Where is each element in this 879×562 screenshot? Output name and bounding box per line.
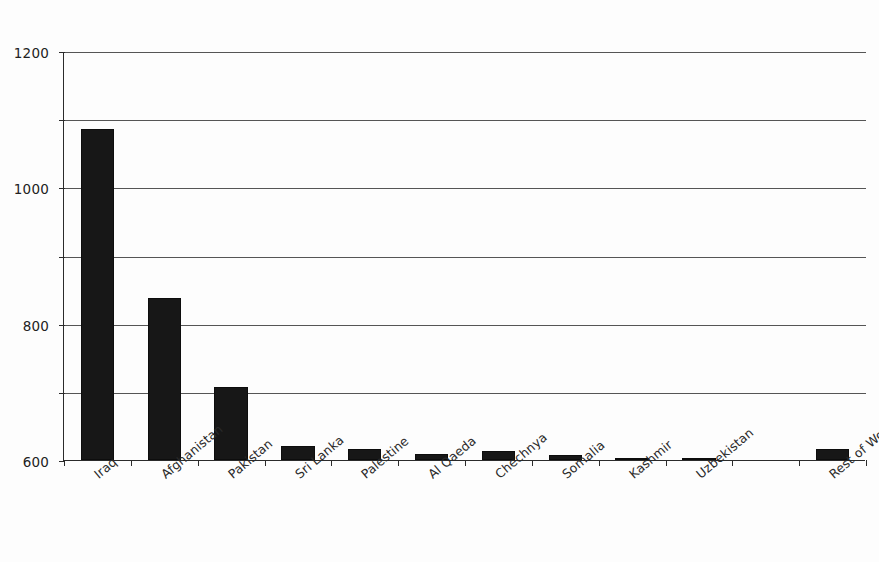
x-tick-mark <box>131 460 132 466</box>
gridline <box>64 188 866 189</box>
bar <box>148 298 181 460</box>
gridline <box>64 120 866 121</box>
x-tick-mark <box>799 460 800 466</box>
x-tick-mark <box>198 460 199 466</box>
bar <box>214 387 247 460</box>
x-tick-mark <box>465 460 466 466</box>
y-tick-label: 600 <box>23 454 59 470</box>
x-tick-mark <box>666 460 667 466</box>
x-tick-mark <box>64 460 65 466</box>
gridline <box>64 325 866 326</box>
x-tick-mark <box>265 460 266 466</box>
y-tick-mark: 600 <box>59 257 65 258</box>
x-tick-mark <box>866 460 867 466</box>
gridline <box>64 393 866 394</box>
y-tick-label: 1200 <box>14 45 59 61</box>
y-tick-mark: 1200 <box>59 52 65 53</box>
y-tick-mark: 800 <box>59 188 65 189</box>
y-tick-mark: 1000 <box>59 120 65 121</box>
y-tick-mark: 200 <box>59 393 65 394</box>
y-tick-mark: 400 <box>59 325 65 326</box>
x-tick-mark <box>532 460 533 466</box>
x-tick-mark <box>331 460 332 466</box>
bar <box>81 129 114 460</box>
x-tick-mark <box>732 460 733 466</box>
x-tick-mark <box>599 460 600 466</box>
gridline <box>64 257 866 258</box>
x-axis-labels: IraqAfghanistanPakistanSri LankaPalestin… <box>63 470 865 560</box>
bar-chart: 020040060080010001200 IraqAfghanistanPak… <box>0 0 879 562</box>
gridline <box>64 52 866 53</box>
y-tick-label: 800 <box>23 318 59 334</box>
x-tick-mark <box>398 460 399 466</box>
plot-area: 020040060080010001200 <box>63 52 865 461</box>
y-tick-label: 1000 <box>14 181 59 197</box>
